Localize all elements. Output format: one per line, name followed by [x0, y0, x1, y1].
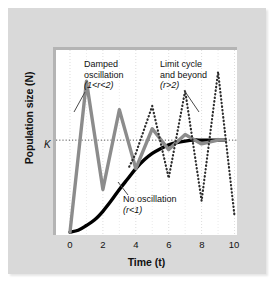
x-tick-label-0: 0	[60, 239, 80, 250]
x-axis-label: Time (t)	[56, 256, 237, 268]
annotation-limit-cycle: Limit cycle and beyond (r>2)	[160, 59, 207, 91]
annotation-noosc-line2: (r<1)	[123, 205, 177, 216]
carrying-capacity-label: K	[44, 139, 51, 150]
annotation-limit-line2: and beyond	[160, 70, 207, 81]
annotation-damped-line2: oscillation	[84, 70, 124, 81]
x-tick-label-10: 10	[224, 239, 244, 250]
annotation-damped-line1: Damped	[84, 59, 124, 70]
x-tick-label-2: 2	[93, 239, 113, 250]
x-tick-label-6: 6	[159, 239, 179, 250]
y-axis-label: Population size (N)	[23, 53, 35, 183]
annotation-limit-line3: (r>2)	[160, 80, 207, 91]
x-tick-label-4: 4	[126, 239, 146, 250]
annotation-damped-oscillation: Damped oscillation (1<r<2)	[84, 59, 124, 91]
annotation-limit-line1: Limit cycle	[160, 59, 207, 70]
annotation-no-oscillation: No oscillation (r<1)	[123, 194, 177, 215]
annotation-noosc-line1: No oscillation	[123, 194, 177, 205]
figure-container: Population size (N) K 0 2 4 6 8 10 Time …	[0, 0, 275, 284]
x-tick-label-8: 8	[192, 239, 212, 250]
figure-card: Population size (N) K 0 2 4 6 8 10 Time …	[8, 8, 266, 274]
annotation-damped-line3: (1<r<2)	[84, 80, 124, 91]
